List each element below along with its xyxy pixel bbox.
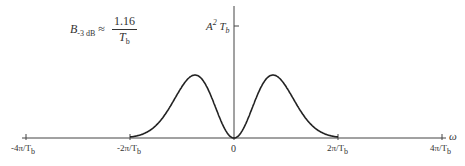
x-axis-label: ω [449,130,457,142]
bandwidth-annotation: B-3 dB ≈ 1.16 Tb [70,14,137,46]
tick-label-neg2pi: -2π/Tb [117,143,141,156]
tick-label-pos4pi: 4π/Tb [430,143,451,156]
tick-label-neg4pi: -4π/Tb [11,143,35,156]
y-marker-label: A2 Tb [206,18,230,35]
tick-label-zero: 0 [231,143,236,154]
tick-label-pos2pi: 2π/Tb [327,143,348,156]
